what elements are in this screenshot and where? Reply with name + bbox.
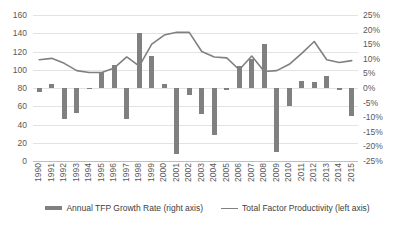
- x-axis-tick-label-2004: 2004: [208, 163, 220, 182]
- x-axis-line: [33, 161, 358, 162]
- left-axis-tick-label: 140: [13, 29, 27, 38]
- left-axis-tick-label: 60: [18, 102, 27, 111]
- x-axis-tick-label-1999: 1999: [146, 163, 158, 182]
- x-axis-tick-label-1990: 1990: [33, 163, 45, 182]
- x-axis-labels: 1990199119921993199419951996199719981999…: [33, 163, 358, 197]
- right-axis-tick-label: 25%: [363, 11, 380, 20]
- x-axis-tick-label-1998: 1998: [133, 163, 145, 182]
- x-axis-tick-label-2011: 2011: [296, 163, 308, 181]
- right-axis-tick-label: 20%: [363, 26, 380, 35]
- x-axis-tick-label-2003: 2003: [196, 163, 208, 182]
- legend-label-bars: Annual TFP Growth Rate (right axis): [66, 203, 203, 213]
- legend-item-line[interactable]: Total Factor Productivity (left axis): [221, 203, 370, 213]
- x-axis-tick-label-2013: 2013: [321, 163, 333, 182]
- left-axis-tick-label: 80: [18, 84, 27, 93]
- line-series-total-factor-productivity: [33, 15, 358, 161]
- x-axis-tick-label-2000: 2000: [158, 163, 170, 182]
- x-axis-tick-label-1994: 1994: [83, 163, 95, 182]
- plot-area: [33, 15, 358, 161]
- x-axis-tick-label-2014: 2014: [333, 163, 345, 182]
- x-axis-tick-label-2008: 2008: [258, 163, 270, 182]
- right-axis-tick-label: 5%: [363, 69, 375, 78]
- legend-bar-swatch-icon: [45, 206, 62, 210]
- x-axis-tick-label-1996: 1996: [108, 163, 120, 182]
- left-axis-tick-label: 0: [22, 157, 27, 166]
- x-axis-tick-label-2009: 2009: [271, 163, 283, 182]
- right-axis-tick-label: -25%: [363, 157, 383, 166]
- x-axis-tick-label-1993: 1993: [71, 163, 83, 182]
- chart-legend: Annual TFP Growth Rate (right axis) Tota…: [0, 203, 415, 213]
- x-axis-tick-label-1992: 1992: [58, 163, 70, 182]
- right-axis-tick-label: -5%: [363, 99, 378, 108]
- x-axis-tick-label-2012: 2012: [308, 163, 320, 182]
- right-axis-tick-label: -10%: [363, 113, 383, 122]
- x-axis-tick-label-1997: 1997: [121, 163, 133, 182]
- x-axis-tick-label-1991: 1991: [46, 163, 58, 182]
- right-axis-tick-label: -20%: [363, 142, 383, 151]
- left-axis-tick-label: 160: [13, 11, 27, 20]
- right-axis-tick-label: 15%: [363, 40, 380, 49]
- x-axis-tick-label-2005: 2005: [221, 163, 233, 182]
- legend-line-swatch-icon: [221, 208, 238, 209]
- left-axis-tick-label: 20: [18, 139, 27, 148]
- x-axis-tick-label-2010: 2010: [283, 163, 295, 182]
- right-axis: -25%-20%-15%-10%-5%0%5%10%15%20%25%: [360, 15, 406, 161]
- x-axis-tick-label-2001: 2001: [171, 163, 183, 182]
- x-axis-tick-label-2015: 2015: [346, 163, 358, 182]
- tfp-chart: 020406080100120140160 -25%-20%-15%-10%-5…: [0, 0, 415, 233]
- right-axis-tick-label: 0%: [363, 84, 375, 93]
- right-axis-tick-label: 10%: [363, 55, 380, 64]
- x-axis-tick-label-1995: 1995: [96, 163, 108, 182]
- right-axis-tick-label: -15%: [363, 128, 383, 137]
- legend-item-bars[interactable]: Annual TFP Growth Rate (right axis): [45, 203, 203, 213]
- x-axis-tick-label-2007: 2007: [246, 163, 258, 182]
- left-axis-tick-label: 100: [13, 66, 27, 75]
- left-axis: 020406080100120140160: [0, 15, 30, 161]
- left-axis-tick-label: 40: [18, 121, 27, 130]
- legend-label-line: Total Factor Productivity (left axis): [242, 203, 370, 213]
- x-axis-tick-label-2006: 2006: [233, 163, 245, 182]
- x-axis-tick-label-2002: 2002: [183, 163, 195, 182]
- left-axis-tick-label: 120: [13, 48, 27, 57]
